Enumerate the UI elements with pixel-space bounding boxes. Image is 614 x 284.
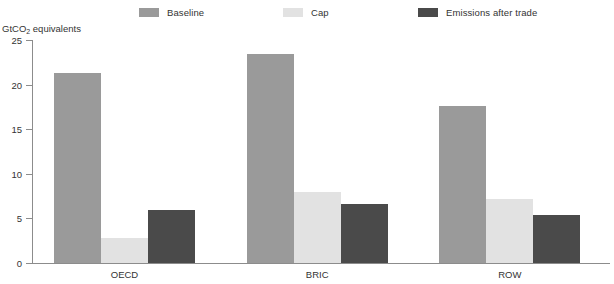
x-axis-label-row: ROW [498, 269, 521, 280]
bar-bric-cap [294, 192, 341, 263]
bar-chart: Baseline Cap Emissions after trade GtCO2… [0, 0, 614, 284]
y-axis-title: GtCO2 equivalents [2, 23, 81, 34]
y-axis-title-pre: GtCO [2, 23, 26, 34]
y-axis-tick-label: 25 [0, 35, 22, 46]
legend-label-emissions-after-trade: Emissions after trade [446, 7, 537, 18]
bar-row-emissions-after-trade [533, 215, 580, 263]
bar-bric-emissions-after-trade [341, 204, 388, 263]
legend-swatch-baseline [139, 8, 159, 17]
bar-oecd-emissions-after-trade [148, 210, 195, 263]
legend-item-emissions-after-trade: Emissions after trade [418, 5, 537, 19]
y-axis-tick-label: 15 [0, 124, 22, 135]
x-axis-label-bric: BRIC [306, 269, 329, 280]
legend-swatch-emissions-after-trade [418, 8, 438, 17]
y-axis-tick [26, 263, 33, 264]
bar-bric-baseline [247, 54, 294, 263]
legend-item-baseline: Baseline [139, 5, 204, 19]
legend-label-baseline: Baseline [167, 7, 204, 18]
bar-oecd-cap [101, 238, 148, 263]
bar-oecd-baseline [54, 73, 101, 263]
y-axis-tick-label: 10 [0, 168, 22, 179]
y-axis-tick-label: 5 [0, 213, 22, 224]
y-axis-tick-label: 0 [0, 258, 22, 269]
bar-row-cap [486, 199, 533, 263]
y-axis-title-post: equivalents [30, 23, 81, 34]
legend-item-cap: Cap [283, 5, 329, 19]
bar-row-baseline [439, 106, 486, 263]
chart-legend: Baseline Cap Emissions after trade [0, 5, 614, 19]
x-axis-label-oecd: OECD [111, 269, 138, 280]
y-axis-title-subscript: 2 [26, 28, 30, 35]
legend-label-cap: Cap [311, 7, 329, 18]
plot-area [32, 40, 610, 263]
legend-swatch-cap [283, 8, 303, 17]
x-axis-line [32, 263, 610, 264]
y-axis-tick-label: 20 [0, 79, 22, 90]
